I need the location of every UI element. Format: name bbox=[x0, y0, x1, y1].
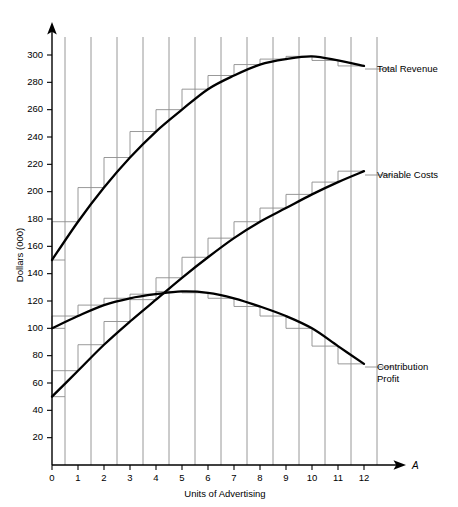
y-axis-title: Dollars (000) bbox=[14, 228, 25, 282]
x-tick-label-10: 10 bbox=[307, 472, 318, 483]
x-tick-label-6: 6 bbox=[205, 472, 210, 483]
series-label-contribution-profit-line1: Contribution bbox=[377, 361, 428, 372]
chart-figure: 2040608010012014016018020022024026028030… bbox=[0, 0, 458, 507]
x-tick-label-0: 0 bbox=[49, 472, 54, 483]
y-tick-label-160: 160 bbox=[27, 240, 43, 251]
y-tick-group: 2040608010012014016018020022024026028030… bbox=[27, 49, 52, 443]
y-tick-label-140: 140 bbox=[27, 267, 43, 278]
axes-group bbox=[47, 22, 406, 470]
step-overlay-total-revenue bbox=[52, 56, 364, 260]
y-tick-label-260: 260 bbox=[27, 103, 43, 114]
curve-group bbox=[52, 56, 364, 396]
x-tick-label-12: 12 bbox=[359, 472, 370, 483]
y-tick-label-20: 20 bbox=[32, 431, 43, 442]
x-tick-label-2: 2 bbox=[101, 472, 106, 483]
x-tick-label-1: 1 bbox=[75, 472, 80, 483]
x-tick-group: 0123456789101112 bbox=[49, 465, 369, 483]
curve-variable-costs bbox=[52, 171, 364, 397]
y-tick-label-300: 300 bbox=[27, 49, 43, 60]
y-tick-label-240: 240 bbox=[27, 131, 43, 142]
x-tick-label-11: 11 bbox=[333, 472, 343, 483]
x-tick-label-8: 8 bbox=[257, 472, 262, 483]
step-overlay-group bbox=[52, 56, 364, 396]
x-tick-label-3: 3 bbox=[127, 472, 132, 483]
series-label-group: Total Revenue Variable Costs Contributio… bbox=[365, 63, 438, 384]
x-tick-label-9: 9 bbox=[283, 472, 288, 483]
y-tick-label-120: 120 bbox=[27, 295, 43, 306]
x-axis-variable-label: A bbox=[411, 460, 419, 471]
step-overlay-variable-costs bbox=[52, 171, 364, 397]
y-tick-label-60: 60 bbox=[32, 377, 43, 388]
y-tick-label-180: 180 bbox=[27, 213, 43, 224]
y-tick-label-40: 40 bbox=[32, 404, 43, 415]
y-tick-label-100: 100 bbox=[27, 322, 43, 333]
x-tick-label-4: 4 bbox=[153, 472, 158, 483]
y-tick-label-280: 280 bbox=[27, 76, 43, 87]
series-label-contribution-profit-line2: Profit bbox=[377, 373, 400, 384]
curve-contribution-profit bbox=[52, 291, 364, 363]
y-tick-label-220: 220 bbox=[27, 158, 43, 169]
y-tick-label-200: 200 bbox=[27, 185, 43, 196]
step-overlay-contribution-profit bbox=[52, 291, 364, 363]
series-label-total-revenue: Total Revenue bbox=[377, 63, 438, 74]
x-axis-title: Units of Advertising bbox=[184, 488, 265, 499]
y-tick-label-80: 80 bbox=[32, 349, 43, 360]
gridline-group bbox=[65, 37, 377, 465]
chart-svg: 2040608010012014016018020022024026028030… bbox=[0, 0, 458, 507]
series-label-variable-costs: Variable Costs bbox=[377, 169, 438, 180]
x-tick-label-7: 7 bbox=[231, 472, 236, 483]
x-tick-label-5: 5 bbox=[179, 472, 184, 483]
